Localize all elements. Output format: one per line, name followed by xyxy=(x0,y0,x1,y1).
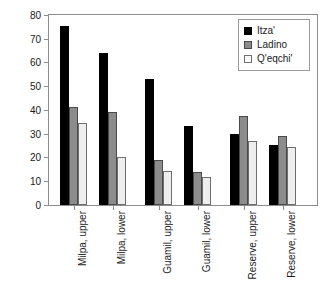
bar-group xyxy=(60,15,87,205)
y-axis-tick: 10 xyxy=(30,175,48,187)
x-axis-tick-mark xyxy=(244,206,245,210)
y-axis-tick-mark xyxy=(44,110,48,111)
y-axis-tick-label: 50 xyxy=(30,81,41,93)
bar xyxy=(154,160,163,205)
legend-item-label: Q'eqchi' xyxy=(257,54,293,64)
bar xyxy=(202,177,211,205)
bar-group xyxy=(99,15,126,205)
bar xyxy=(69,107,78,205)
y-axis-tick-mark xyxy=(44,205,48,206)
y-axis-tick-label: 70 xyxy=(30,34,41,46)
y-axis-tick: 70 xyxy=(30,33,48,45)
legend-item-label: Itza' xyxy=(257,26,275,36)
y-axis: 01020304050607080 xyxy=(0,0,48,206)
x-axis-labels: Milpa, upperMilpa, lowerGuamil, upperGua… xyxy=(49,211,317,306)
legend-item-label: Ladino xyxy=(257,40,287,50)
y-axis-tick-mark xyxy=(44,157,48,158)
x-axis-tick-mark xyxy=(198,206,199,210)
bar xyxy=(163,171,172,205)
legend-item: Itza' xyxy=(244,24,304,38)
x-axis-tick-label: Milpa, upper xyxy=(78,211,88,306)
bar xyxy=(78,123,87,205)
bar xyxy=(287,147,296,205)
y-axis-tick-label: 0 xyxy=(35,200,41,212)
y-axis-tick: 60 xyxy=(30,57,48,69)
y-axis-tick-label: 10 xyxy=(30,176,41,188)
legend-swatch-icon xyxy=(244,41,252,49)
y-axis-tick: 50 xyxy=(30,80,48,92)
bar xyxy=(108,112,117,205)
x-axis-tick-label: Reserve, upper xyxy=(248,211,258,306)
bar xyxy=(99,53,108,205)
x-axis-tick-mark xyxy=(159,206,160,210)
y-axis-tick: 30 xyxy=(30,128,48,140)
bar xyxy=(193,172,202,205)
bar xyxy=(184,126,193,205)
y-axis-tick-mark xyxy=(44,62,48,63)
chart-legend: Itza'LadinoQ'eqchi' xyxy=(238,19,310,71)
y-axis-tick: 40 xyxy=(30,104,48,116)
legend-swatch-icon xyxy=(244,55,252,63)
bar xyxy=(145,79,154,205)
y-axis-tick-label: 30 xyxy=(30,129,41,141)
x-axis-tick-mark xyxy=(74,206,75,210)
x-axis-tick-mark xyxy=(283,206,284,210)
y-axis-tick: 0 xyxy=(35,199,48,211)
bar xyxy=(269,145,278,205)
bar xyxy=(248,141,257,205)
y-axis-tick-mark xyxy=(44,181,48,182)
y-axis-tick-label: 60 xyxy=(30,57,41,69)
bar xyxy=(239,116,248,205)
y-axis-tick-mark xyxy=(44,15,48,16)
y-axis-tick: 80 xyxy=(30,9,48,21)
bar-group xyxy=(184,15,211,205)
x-axis-tick-label: Milpa, lower xyxy=(117,211,127,306)
legend-item: Q'eqchi' xyxy=(244,52,304,66)
x-axis-tick-label: Guamil, upper xyxy=(163,211,173,306)
bar-chart-figure: 01020304050607080 Milpa, upperMilpa, low… xyxy=(0,0,331,308)
y-axis-tick-mark xyxy=(44,39,48,40)
x-axis-tick-label: Reserve, lower xyxy=(287,211,297,306)
y-axis-tick-mark xyxy=(44,134,48,135)
bar-group xyxy=(145,15,172,205)
bar xyxy=(230,134,239,205)
y-axis-tick: 20 xyxy=(30,152,48,164)
y-axis-tick-mark xyxy=(44,86,48,87)
y-axis-tick-label: 20 xyxy=(30,152,41,164)
legend-swatch-icon xyxy=(244,27,252,35)
bar xyxy=(117,157,126,205)
bar xyxy=(278,136,287,205)
y-axis-tick-label: 40 xyxy=(30,105,41,117)
legend-item: Ladino xyxy=(244,38,304,52)
bar xyxy=(60,26,69,205)
x-axis-tick-label: Guamil, lower xyxy=(202,211,212,306)
x-axis-tick-mark xyxy=(113,206,114,210)
y-axis-tick-label: 80 xyxy=(30,10,41,22)
